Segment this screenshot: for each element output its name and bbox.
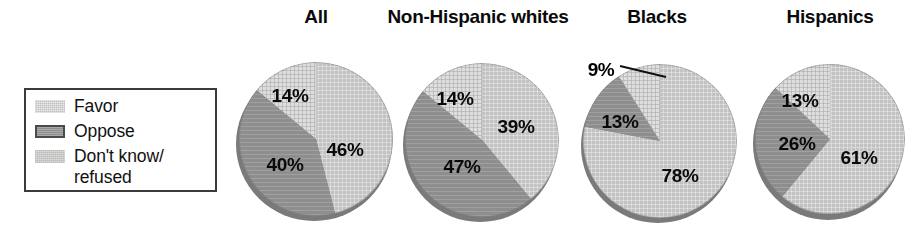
pie-blacks (583, 64, 737, 218)
pie-title-non-hispanic-whites: Non-Hispanic whites (387, 6, 568, 28)
legend-item-dont-know: Don't know/ refused (35, 146, 164, 188)
pie-chart-figure: Favor Oppose Don't know/ refused All Non… (0, 0, 920, 242)
pie-disc (755, 63, 905, 215)
pie-title-blacks: Blacks (627, 6, 686, 28)
pie-slice-label: 78% (662, 165, 699, 187)
legend-label-dont-know: Don't know/ refused (74, 146, 164, 188)
legend-label-oppose: Oppose (74, 121, 135, 142)
pie-non-hispanic-whites (405, 63, 559, 217)
pie-disc (583, 64, 737, 218)
pie-all (238, 62, 394, 216)
legend-swatch-favor-icon (35, 100, 65, 113)
pie-hispanics (755, 63, 905, 215)
pie-slice-label: 46% (327, 139, 364, 161)
pie-slice-label: 14% (272, 85, 309, 107)
pie-title-all: All (304, 6, 327, 28)
pie-title-hispanics: Hispanics (786, 6, 873, 28)
pie-disc (238, 62, 394, 216)
legend-item-oppose: Oppose (35, 121, 135, 142)
pie-disc (405, 63, 559, 217)
legend: Favor Oppose Don't know/ refused (24, 88, 217, 192)
pie-slice-label: 61% (841, 147, 878, 169)
pie-slice-label: 26% (779, 133, 816, 155)
pie-slice-label: 14% (437, 88, 474, 110)
pie-slice-label: 39% (498, 116, 535, 138)
pie-slice-label: 9% (588, 59, 615, 81)
pie-slice-label: 13% (782, 90, 819, 112)
legend-swatch-oppose-icon (35, 125, 65, 138)
pie-slice-label: 13% (602, 111, 639, 133)
pie-slice-label: 40% (267, 154, 304, 176)
legend-swatch-dont-know-icon (35, 150, 65, 163)
legend-item-favor: Favor (35, 96, 118, 117)
legend-label-favor: Favor (74, 96, 118, 117)
pie-slice-label: 47% (444, 156, 481, 178)
